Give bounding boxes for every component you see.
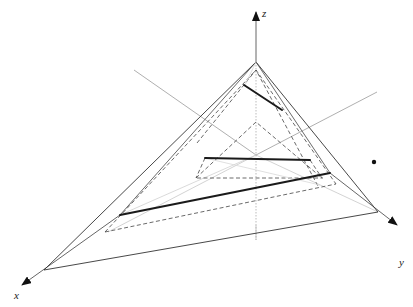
z-axis: z [256, 7, 267, 240]
thick-section-middle [205, 158, 310, 160]
x-axis-label: x [13, 289, 19, 301]
dashed-triangle-large-base [105, 184, 336, 232]
pyramid-diagram: z x y [0, 0, 413, 307]
faint-lines [205, 62, 320, 185]
isolated-point [372, 160, 376, 164]
z-axis-label: z [261, 7, 267, 19]
y-axis-label: y [398, 256, 404, 268]
outer-edge-right [256, 62, 378, 212]
guide-lines [108, 70, 378, 232]
inner-edge-right [256, 62, 330, 173]
outer-pyramid [44, 62, 378, 270]
thick-section-top [244, 85, 282, 110]
guide-line-right-continued [108, 155, 256, 232]
y-axis: y [330, 173, 404, 268]
guide-line-right [256, 92, 377, 155]
dashed-triangles [105, 70, 336, 232]
dashed-connector-left [196, 158, 205, 178]
x-axis: x [13, 155, 256, 301]
